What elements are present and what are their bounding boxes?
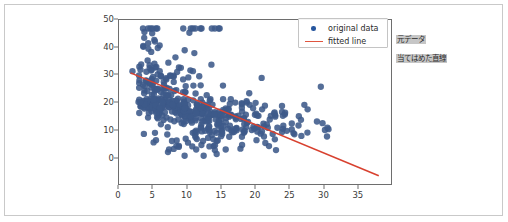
legend-label: fitted line xyxy=(325,37,366,46)
annotation-overlay: 元データ 当てはめた直線 xyxy=(396,27,456,65)
legend-entry-original-data: original data xyxy=(303,22,383,34)
x-tick-label: 25 xyxy=(284,190,295,200)
y-tick-label: 30 xyxy=(103,69,114,79)
x-tick-label: 20 xyxy=(250,190,261,200)
legend-marker-dot-icon xyxy=(303,23,325,33)
y-axis-tick-labels: 50 40 30 20 10 0 xyxy=(96,19,114,185)
matplotlib-figure: 50 40 30 20 10 0 0 5 10 15 20 25 30 35 xyxy=(0,0,508,222)
y-tick-label: 20 xyxy=(103,97,114,107)
x-tick-label: 30 xyxy=(318,190,329,200)
annotation-original-data: 元データ xyxy=(396,35,426,44)
x-tick-label: 35 xyxy=(352,190,363,200)
chart-legend[interactable]: original data fitted line xyxy=(298,18,388,48)
annotation-fitted-line: 当てはめた直線 xyxy=(396,54,447,63)
legend-marker-line-icon xyxy=(303,36,325,46)
x-tick-label: 15 xyxy=(215,190,226,200)
legend-label: original data xyxy=(325,24,378,33)
y-tick-label: 40 xyxy=(103,42,114,52)
y-tick-label: 0 xyxy=(109,153,114,163)
x-axis-tick-labels: 0 5 10 15 20 25 30 35 xyxy=(118,190,392,202)
x-tick-label: 10 xyxy=(181,190,192,200)
y-tick-label: 10 xyxy=(103,125,114,135)
legend-entry-fitted-line: fitted line xyxy=(303,35,383,47)
y-tick-label: 50 xyxy=(103,14,114,24)
x-tick-label: 0 xyxy=(115,190,120,200)
x-tick-label: 5 xyxy=(150,190,155,200)
